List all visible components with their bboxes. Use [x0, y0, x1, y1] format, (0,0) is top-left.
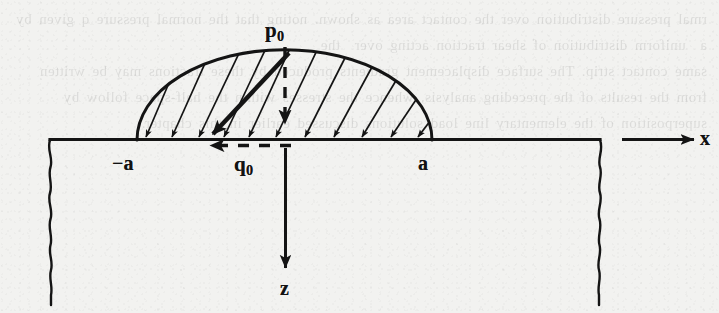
label-peak-pressure: p0 [265, 18, 284, 45]
label-z-axis: z [280, 277, 289, 300]
label-peak-pressure-subscript: 0 [277, 28, 284, 44]
hatch-arrow [224, 44, 268, 137]
hatch-arrow [443, 112, 468, 137]
label-x-axis: x [700, 127, 710, 150]
emphasised-hatch-arrow [213, 53, 289, 134]
left-break-line [49, 140, 52, 305]
label-peak-shear-subscript: 0 [246, 162, 253, 178]
hatch-arrow [418, 92, 452, 137]
label-left-contact-edge: −a [112, 152, 133, 175]
pressure-distribution-diagram [0, 0, 719, 313]
label-peak-shear: q0 [234, 152, 253, 179]
figure-container: rmal pressure distribution over the cont… [0, 0, 719, 313]
pressure-hatch-arrows [146, 44, 468, 137]
hatch-arrow [146, 57, 180, 137]
label-right-contact-edge: a [418, 152, 428, 175]
right-break-line [598, 140, 601, 305]
